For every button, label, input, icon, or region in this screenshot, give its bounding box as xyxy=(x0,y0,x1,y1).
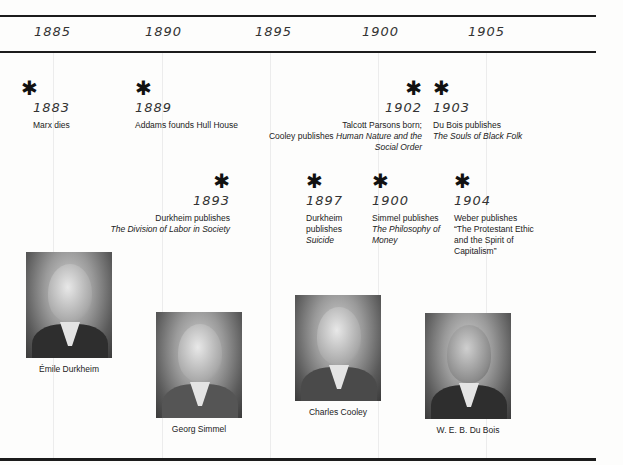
axis-year-1900: 1900 xyxy=(362,24,399,39)
portrait-durkheim: Émile Durkheim xyxy=(26,252,112,374)
work-title: Suicide xyxy=(306,235,334,245)
event-1904: ✱ 1904 Weber publishes “The Protestant E… xyxy=(454,172,534,257)
portrait-caption: Émile Durkheim xyxy=(26,364,112,374)
timeline-top-rule xyxy=(0,15,596,17)
asterisk-icon: ✱ xyxy=(306,172,366,190)
asterisk-icon: ✱ xyxy=(454,172,534,190)
portrait-photo xyxy=(26,252,112,358)
event-1883: ✱ 1883 Marx dies xyxy=(21,79,70,131)
portrait-photo xyxy=(295,295,381,401)
work-title: The Souls of Black Folk xyxy=(433,131,522,141)
portrait-simmel: Georg Simmel xyxy=(156,312,242,434)
event-year: 1889 xyxy=(135,100,238,116)
asterisk-icon: ✱ xyxy=(21,79,70,97)
event-description: Talcott Parsons born; Cooley publishes H… xyxy=(252,120,422,153)
work-title: The Philosophy of Money xyxy=(372,224,440,245)
axis-year-1885: 1885 xyxy=(34,24,71,39)
event-year: 1902 xyxy=(252,100,422,116)
event-description: Durkheim publishes Suicide xyxy=(306,213,366,246)
event-1893: ✱ 1893 Durkheim publishes The Division o… xyxy=(90,172,230,235)
event-description: Simmel publishes The Philosophy of Money xyxy=(372,213,450,246)
event-1903: ✱ 1903 Du Bois publishes The Souls of Bl… xyxy=(433,79,553,142)
portrait-caption: Charles Cooley xyxy=(295,407,381,417)
event-year: 1893 xyxy=(90,193,230,209)
asterisk-icon: ✱ xyxy=(90,172,230,190)
work-title: Human Nature and the Social Order xyxy=(336,131,422,152)
event-1889: ✱ 1889 Addams founds Hull House xyxy=(135,79,238,131)
asterisk-icon: ✱ xyxy=(252,79,422,97)
event-description: Du Bois publishes The Souls of Black Fol… xyxy=(433,120,553,142)
event-year: 1903 xyxy=(433,100,553,116)
portrait-caption: W. E. B. Du Bois xyxy=(425,425,511,435)
event-year: 1904 xyxy=(454,193,534,209)
portrait-photo xyxy=(425,313,511,419)
timeline-axis-rule xyxy=(0,51,596,53)
event-year: 1900 xyxy=(372,193,450,209)
asterisk-icon: ✱ xyxy=(135,79,238,97)
event-description: Weber publishes “The Protestant Ethic an… xyxy=(454,213,534,257)
event-description: Addams founds Hull House xyxy=(135,120,238,131)
event-1900: ✱ 1900 Simmel publishes The Philosophy o… xyxy=(372,172,450,246)
axis-year-1890: 1890 xyxy=(145,24,182,39)
portrait-caption: Georg Simmel xyxy=(156,424,242,434)
event-1897: ✱ 1897 Durkheim publishes Suicide xyxy=(306,172,366,246)
event-1902: ✱ 1902 Talcott Parsons born; Cooley publ… xyxy=(252,79,422,153)
event-description: Marx dies xyxy=(33,120,70,131)
asterisk-icon: ✱ xyxy=(433,79,553,97)
work-title: The Division of Labor in Society xyxy=(110,224,230,234)
event-description: Durkheim publishes The Division of Labor… xyxy=(90,213,230,235)
timeline-bottom-rule xyxy=(0,458,596,461)
portrait-du-bois: W. E. B. Du Bois xyxy=(425,313,511,435)
axis-year-1895: 1895 xyxy=(255,24,292,39)
event-year: 1883 xyxy=(33,100,70,116)
portrait-cooley: Charles Cooley xyxy=(295,295,381,417)
axis-year-1905: 1905 xyxy=(468,24,505,39)
portrait-photo xyxy=(156,312,242,418)
asterisk-icon: ✱ xyxy=(372,172,450,190)
event-year: 1897 xyxy=(306,193,366,209)
